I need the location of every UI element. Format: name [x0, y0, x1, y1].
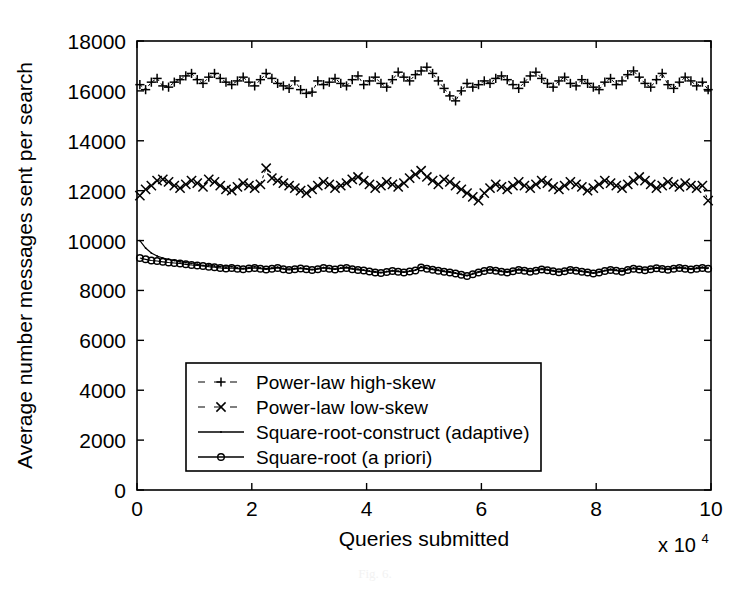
data-point-marker [254, 266, 256, 268]
y-tick-label: 2000 [79, 429, 126, 452]
y-tick-label: 6000 [79, 329, 126, 352]
y-tick-label: 18000 [68, 30, 126, 53]
figure-caption: Fig. 6. [0, 566, 750, 582]
legend-item-3 [198, 431, 244, 433]
data-point-marker [208, 264, 210, 266]
data-point-marker [150, 252, 152, 254]
y-axis-label: Average number messages sent per search [13, 62, 36, 469]
data-point-marker [139, 240, 141, 242]
data-point-marker [156, 255, 158, 257]
legend-label: Power-law low-skew [256, 397, 428, 418]
data-point-marker [231, 266, 233, 268]
x-axis-multiplier-exponent: 4 [701, 531, 708, 546]
data-point-marker [185, 262, 187, 264]
series-4 [137, 255, 712, 280]
y-tick-label: 4000 [79, 379, 126, 402]
x-tick-label: 0 [131, 497, 143, 520]
data-point-marker [179, 261, 181, 263]
y-tick-label: 0 [114, 479, 126, 502]
series-1 [135, 63, 712, 106]
y-tick-label: 10000 [68, 230, 126, 253]
legend-label: Power-law high-skew [256, 372, 436, 393]
figure-container: 0246810020004000600080001000012000140001… [0, 0, 750, 603]
data-point-marker [145, 247, 147, 249]
x-axis-multiplier: x 10 [658, 534, 696, 556]
y-tick-label: 16000 [68, 80, 126, 103]
y-tick-label: 12000 [68, 180, 126, 203]
y-tick-label: 14000 [68, 130, 126, 153]
x-tick-label: 2 [246, 497, 258, 520]
x-tick-label: 10 [699, 497, 722, 520]
y-tick-label: 8000 [79, 279, 126, 302]
legend-label: Square-root (a priori) [256, 447, 432, 468]
series-2 [135, 164, 712, 206]
legend-label: Square-root-construct (adaptive) [256, 422, 530, 443]
series-line [140, 67, 708, 101]
x-axis-label: Queries submitted [339, 527, 509, 550]
x-tick-label: 8 [590, 497, 602, 520]
x-tick-label: 4 [361, 497, 373, 520]
data-point-marker [191, 263, 193, 265]
x-tick-label: 6 [476, 497, 488, 520]
chart-plot: 0246810020004000600080001000012000140001… [0, 0, 750, 603]
data-point-marker [220, 431, 222, 433]
